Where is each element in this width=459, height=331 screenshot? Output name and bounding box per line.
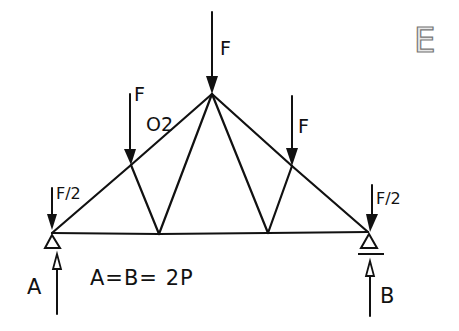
bottom-chord <box>52 232 368 234</box>
load-label-upper-left: F <box>134 83 145 105</box>
equation-reactions: A=B= 2P <box>90 266 194 290</box>
web-upperleft-lowerleft <box>131 165 159 234</box>
panel-label: E <box>414 20 435 60</box>
top-chord-right <box>212 94 368 232</box>
member-label-o2: O2 <box>146 113 173 135</box>
supports <box>45 234 384 254</box>
reaction-arrow-a-icon <box>53 254 61 314</box>
truss-diagram: F F F F/2 F/2 O2 A B A=B= 2P E <box>0 0 459 331</box>
roller-support-icon <box>358 234 384 254</box>
top-chord-left <box>52 94 212 233</box>
load-label-apex: F <box>220 37 231 59</box>
load-label-right-half: F/2 <box>376 189 401 208</box>
load-arrow-apex-icon <box>206 12 218 94</box>
load-label-upper-right: F <box>298 115 309 137</box>
load-labels: F F F F/2 F/2 <box>56 37 401 208</box>
reaction-label-b: B <box>380 284 394 308</box>
pin-support-icon <box>45 235 60 248</box>
load-arrow-upper-right-icon <box>286 96 298 166</box>
load-label-left-half: F/2 <box>56 184 81 203</box>
truss-members <box>52 94 368 234</box>
reaction-label-a: A <box>27 275 42 299</box>
reaction-arrow-b-icon <box>366 261 374 316</box>
web-upperright-lowerright <box>268 166 292 233</box>
web-apex-lowerright <box>212 94 268 233</box>
